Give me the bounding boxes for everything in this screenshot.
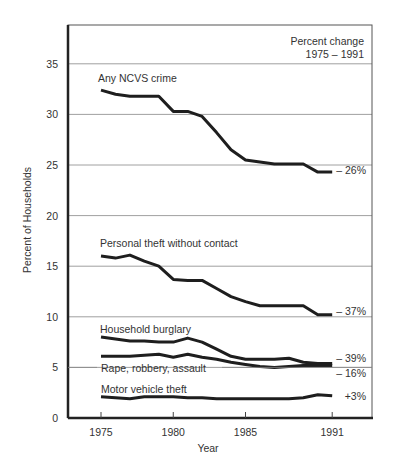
- y-tick-label: 30: [46, 108, 58, 120]
- percent-change-label: – 39%: [336, 352, 366, 364]
- y-tick-label: 35: [46, 58, 58, 70]
- annotation-header-line1: Percent change: [290, 35, 364, 47]
- x-tick-label: 1980: [162, 426, 186, 438]
- percent-change-labels: – 26%– 37%– 39%– 16%+3%: [336, 164, 366, 402]
- y-axis-title: Percent of Households: [21, 167, 33, 273]
- y-tick-label: 5: [52, 361, 58, 373]
- gridlines: [68, 64, 372, 368]
- series-labels: Any NCVS crimePersonal theft without con…: [68, 72, 372, 395]
- series-line-1: [101, 255, 332, 315]
- series-label: Motor vehicle theft: [101, 383, 187, 395]
- percent-change-label: – 37%: [336, 305, 366, 317]
- x-tick-label: 1991: [321, 426, 345, 438]
- x-tick-labels: 1975198019851991: [89, 412, 344, 438]
- series-label: Household burglary: [100, 323, 192, 335]
- x-tick-label: 1985: [234, 426, 258, 438]
- y-tick-label: 25: [46, 159, 58, 171]
- y-tick-label: 10: [46, 311, 58, 323]
- x-axis-title: Year: [197, 442, 219, 454]
- line-chart: 05101520253035 1975198019851991 Any NCVS…: [0, 0, 394, 470]
- series-label: Rape, robbery, assault: [101, 362, 206, 374]
- percent-change-label: +3%: [345, 390, 366, 402]
- percent-change-label: – 16%: [336, 367, 366, 379]
- annotation-header-line2: 1975 – 1991: [306, 48, 365, 60]
- series-line-0: [101, 90, 332, 172]
- y-tick-label: 20: [46, 210, 58, 222]
- series-label: Any NCVS crime: [98, 72, 177, 84]
- y-tick-label: 0: [52, 412, 58, 424]
- series-label: Personal theft without contact: [100, 237, 238, 249]
- x-tick-label: 1975: [89, 426, 113, 438]
- series-line-4: [101, 395, 332, 399]
- percent-change-label: – 26%: [336, 164, 366, 176]
- y-tick-label: 15: [46, 260, 58, 272]
- y-tick-labels: 05101520253035: [46, 58, 58, 424]
